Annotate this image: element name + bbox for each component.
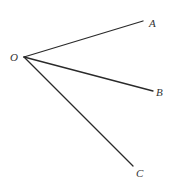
label-a: A: [148, 17, 156, 29]
ray-ob: [24, 57, 153, 91]
ray-oa: [24, 21, 143, 57]
label-c: C: [136, 167, 144, 179]
angle-rays-diagram: O A B C: [0, 0, 176, 187]
ray-oc: [24, 57, 133, 166]
label-b: B: [156, 86, 163, 98]
label-o: O: [10, 51, 18, 63]
